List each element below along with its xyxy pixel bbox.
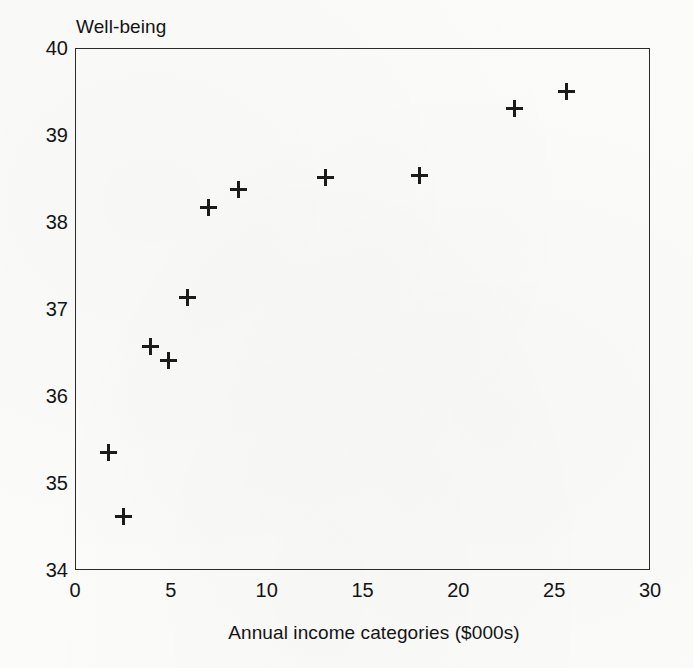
x-axis-title: Annual income categories ($000s) [0,622,693,644]
data-point-marker [100,444,117,461]
x-tick-label: 0 [45,580,105,600]
data-point-marker [317,169,334,186]
data-point-marker [506,100,523,117]
data-point-marker [230,181,247,198]
x-tick-label: 30 [620,580,680,600]
data-point-marker [142,338,159,355]
data-point-marker [160,352,177,369]
data-point-marker [200,199,217,216]
y-tick-label: 36 [16,386,68,406]
data-point-marker [411,167,428,184]
x-tick-label: 10 [237,580,297,600]
y-tick-label: 39 [16,125,68,145]
data-point-marker [115,508,132,525]
y-tick-label: 34 [16,560,68,580]
y-tick-label: 35 [16,473,68,493]
plot-frame [75,48,650,570]
x-tick-label: 25 [524,580,584,600]
x-axis-tick-labels: 051015202530 [0,580,693,610]
x-tick-label: 15 [333,580,393,600]
y-tick-label: 37 [16,299,68,319]
scatter-plot-figure: Well-being 34353637383940 051015202530 A… [0,0,693,668]
x-tick-label: 5 [141,580,201,600]
y-tick-label: 40 [16,38,68,58]
data-point-marker [558,83,575,100]
y-axis-title: Well-being [76,16,166,38]
y-axis-tick-labels: 34353637383940 [8,0,68,668]
y-tick-label: 38 [16,212,68,232]
x-tick-label: 20 [428,580,488,600]
data-point-marker [179,289,196,306]
